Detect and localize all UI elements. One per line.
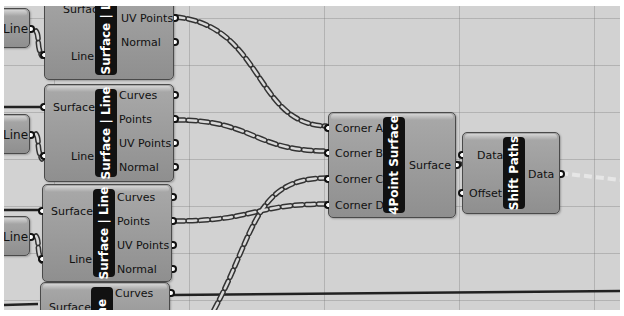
output-port-uv-points[interactable] xyxy=(174,14,179,22)
line-node-1[interactable]: Line xyxy=(4,8,30,48)
input-port-line[interactable] xyxy=(40,51,45,59)
output-port-points[interactable] xyxy=(174,115,179,123)
component-label: Surface | Line xyxy=(93,189,115,277)
input-line: Line xyxy=(71,50,94,63)
input-line: Line xyxy=(69,253,92,266)
input-corner-d: Corner D xyxy=(335,199,384,212)
input-corner-b: Corner B xyxy=(335,147,383,160)
input-surface: Surface xyxy=(51,205,93,218)
input-port-offset[interactable] xyxy=(458,189,463,197)
wire-points1-cornerA xyxy=(176,17,326,126)
input-data: Data xyxy=(477,149,503,162)
output-data: Data xyxy=(528,168,554,181)
input-port-corner-a[interactable] xyxy=(324,124,329,132)
output-normal: Normal xyxy=(119,161,159,174)
output-port-points[interactable] xyxy=(172,217,177,225)
output-port-curves[interactable] xyxy=(174,91,179,99)
output-points: Points xyxy=(119,113,152,126)
output-normal: Normal xyxy=(117,263,157,276)
wire-solid xyxy=(4,304,38,305)
component-label: 4Point Surface xyxy=(383,117,405,213)
line-node-title: Line xyxy=(4,128,28,142)
line-node-2[interactable]: Line xyxy=(4,114,30,154)
input-port-corner-c[interactable] xyxy=(324,175,329,183)
line-node-3[interactable]: Line xyxy=(4,216,30,256)
output-normal: Normal xyxy=(121,36,161,49)
output-curves: Curves xyxy=(115,287,153,300)
output-port-curves[interactable] xyxy=(172,193,177,201)
output-port[interactable] xyxy=(30,233,35,241)
input-port-line[interactable] xyxy=(38,255,43,263)
output-port[interactable] xyxy=(30,131,35,139)
output-port-data[interactable] xyxy=(560,170,565,178)
output-uv-points: UV Points xyxy=(119,137,171,150)
output-port-normal[interactable] xyxy=(174,38,179,46)
wire-points2-cornerB xyxy=(176,120,326,151)
wire-faded-output xyxy=(560,173,620,180)
input-line: Line xyxy=(71,150,94,163)
surface-line-node-3[interactable]: Surface Line Surface | Line Curves Point… xyxy=(42,184,172,282)
wire-solid xyxy=(172,291,620,295)
surface-line-node-2[interactable]: Surface Line Surface | Line Curves Point… xyxy=(44,84,174,182)
component-label: Surface | Line xyxy=(95,6,117,75)
output-port-normal[interactable] xyxy=(172,265,177,273)
input-port-data[interactable] xyxy=(458,151,463,159)
wire-points3-cornerD xyxy=(176,204,326,221)
input-offset: Offset xyxy=(469,187,502,200)
output-surface: Surface xyxy=(409,159,451,172)
input-port-corner-b[interactable] xyxy=(324,149,329,157)
grasshopper-canvas[interactable]: Line Line Line Surface Line Surface | Li… xyxy=(4,6,620,310)
input-surface: Surface xyxy=(49,301,91,310)
output-curves: Curves xyxy=(119,89,157,102)
output-port-uv-points[interactable] xyxy=(174,139,179,147)
output-uv-points: UV Points xyxy=(117,239,169,252)
wire-cornerC xyxy=(214,178,326,310)
surface-line-node-4[interactable]: Surface Line Curves xyxy=(40,282,170,310)
surface-line-node-1[interactable]: Surface Line Surface | Line Points UV Po… xyxy=(44,6,174,80)
input-port-surface[interactable] xyxy=(38,207,43,215)
line-node-title: Line xyxy=(4,230,28,244)
output-port-normal[interactable] xyxy=(174,163,179,171)
four-point-surface-node[interactable]: Corner A Corner B Corner C Corner D 4Poi… xyxy=(328,112,456,218)
shift-paths-node[interactable]: Data Offset Shift Paths Data xyxy=(462,132,560,214)
output-port[interactable] xyxy=(30,25,35,33)
input-corner-a: Corner A xyxy=(335,122,383,135)
component-label: Surface | Line xyxy=(95,89,117,177)
line-node-title: Line xyxy=(4,22,28,36)
output-uv-points: UV Points xyxy=(121,12,173,25)
component-label: Shift Paths xyxy=(503,137,525,209)
input-surface: Surface xyxy=(53,101,95,114)
output-port-surface[interactable] xyxy=(456,161,461,169)
output-port-uv-points[interactable] xyxy=(172,241,177,249)
output-port-curves[interactable] xyxy=(170,289,175,297)
input-port-line[interactable] xyxy=(40,152,45,160)
output-points: Points xyxy=(117,215,150,228)
component-label: Line xyxy=(91,287,113,310)
input-port-surface[interactable] xyxy=(40,103,45,111)
output-curves: Curves xyxy=(117,191,155,204)
input-corner-c: Corner C xyxy=(335,173,383,186)
input-port-corner-d[interactable] xyxy=(324,201,329,209)
